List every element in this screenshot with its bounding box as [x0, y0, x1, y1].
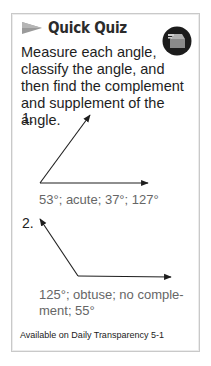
question-2-answer-line2: ment; 55° — [39, 303, 95, 318]
angle-figures — [0, 0, 211, 366]
footer-note: Available on Daily Transparency 5-1 — [20, 330, 164, 340]
question-2-answer-line1: 125°; obtuse; no comple- — [39, 287, 184, 302]
angle-1-diagram — [40, 115, 148, 183]
question-2-number: 2. — [22, 215, 34, 231]
question-1-answer: 53°; acute; 37°; 127° — [39, 192, 159, 207]
angle-2-diagram — [40, 219, 171, 277]
